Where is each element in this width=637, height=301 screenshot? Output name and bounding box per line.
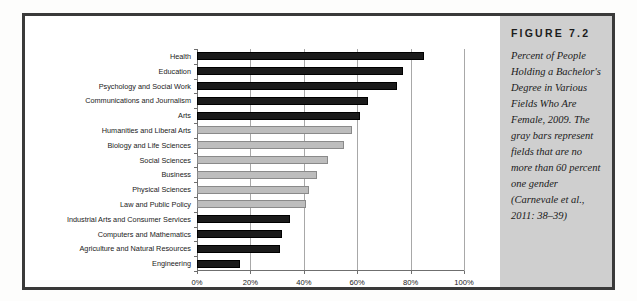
bar: [197, 156, 328, 164]
figure-caption: Percent of People Holding a Bachelor's D…: [511, 48, 603, 223]
caption-panel: FIGURE 7.2 Percent of People Holding a B…: [500, 16, 612, 287]
y-tick: [194, 49, 197, 50]
y-tick: [194, 123, 197, 124]
y-tick: [194, 93, 197, 94]
y-tick: [194, 138, 197, 139]
category-label: Biology and Life Sciences: [107, 142, 191, 149]
bar: [197, 126, 352, 134]
bar: [197, 112, 360, 120]
category-label: Industrial Arts and Consumer Services: [67, 216, 191, 223]
y-tick: [194, 182, 197, 183]
bar: [197, 82, 397, 90]
bar: [197, 230, 282, 238]
y-tick: [194, 79, 197, 80]
x-tick-40: [304, 271, 305, 274]
value-axis-label: 80%: [403, 278, 418, 287]
value-axis-label: 60%: [350, 278, 365, 287]
bar: [197, 52, 424, 60]
y-tick: [194, 108, 197, 109]
category-label: Education: [159, 68, 191, 75]
gridline-100: [464, 49, 465, 271]
category-label: Agriculture and Natural Resources: [79, 245, 191, 252]
bar: [197, 141, 344, 149]
y-tick: [194, 153, 197, 154]
category-label: Communications and Journalism: [85, 97, 191, 104]
bar: [197, 186, 309, 194]
value-axis-label: 20%: [243, 278, 258, 287]
category-label: Business: [161, 171, 191, 178]
bar: [197, 97, 368, 105]
value-axis-label: 100%: [454, 278, 473, 287]
category-label: Arts: [178, 112, 191, 119]
category-label: Humanities and Liberal Arts: [102, 127, 191, 134]
y-tick: [194, 197, 197, 198]
category-label: Social Sciences: [139, 157, 191, 164]
figure-root: HealthEducationPsychology and Social Wor…: [0, 0, 637, 301]
x-tick-100: [464, 271, 465, 274]
y-tick: [194, 271, 197, 272]
bar: [197, 245, 280, 253]
category-axis-line: [197, 270, 464, 271]
category-label: Computers and Mathematics: [98, 231, 191, 238]
value-axis-labels: 0%20%40%60%80%100%: [197, 278, 464, 287]
category-label: Psychology and Social Work: [99, 83, 191, 90]
figure-title: FIGURE 7.2: [511, 27, 603, 39]
x-tick-20: [250, 271, 251, 274]
bar: [197, 200, 306, 208]
y-tick: [194, 227, 197, 228]
bar: [197, 215, 290, 223]
bar: [197, 67, 403, 75]
y-tick: [194, 64, 197, 65]
bar: [197, 171, 317, 179]
y-tick: [194, 256, 197, 257]
y-tick: [194, 212, 197, 213]
x-tick-0: [197, 271, 198, 274]
value-axis-label: 0%: [192, 278, 203, 287]
value-axis-label: 40%: [296, 278, 311, 287]
chart-panel: HealthEducationPsychology and Social Wor…: [25, 16, 506, 287]
category-label: Health: [170, 53, 191, 60]
y-tick: [194, 241, 197, 242]
y-tick: [194, 167, 197, 168]
x-tick-80: [411, 271, 412, 274]
category-label: Engineering: [152, 260, 191, 267]
figure-frame: HealthEducationPsychology and Social Wor…: [22, 13, 615, 290]
plot-area: [197, 49, 464, 271]
gridline-80: [411, 49, 412, 271]
bar: [197, 260, 240, 268]
category-label: Physical Sciences: [132, 186, 191, 193]
category-label: Law and Public Policy: [120, 201, 191, 208]
x-tick-60: [357, 271, 358, 274]
